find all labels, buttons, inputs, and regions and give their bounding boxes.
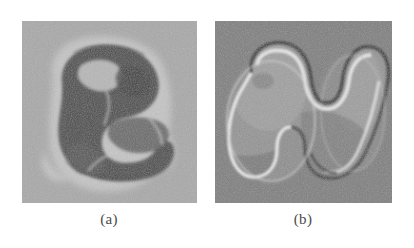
panel-b-image xyxy=(215,21,392,203)
panel-b-svg xyxy=(215,21,392,203)
panel-a-svg xyxy=(22,21,197,203)
panel-a-image xyxy=(22,21,197,203)
figure-container: (a) (b) xyxy=(0,0,414,248)
panel-a-caption: (a) xyxy=(49,210,169,228)
panel-b-caption: (b) xyxy=(243,210,363,228)
